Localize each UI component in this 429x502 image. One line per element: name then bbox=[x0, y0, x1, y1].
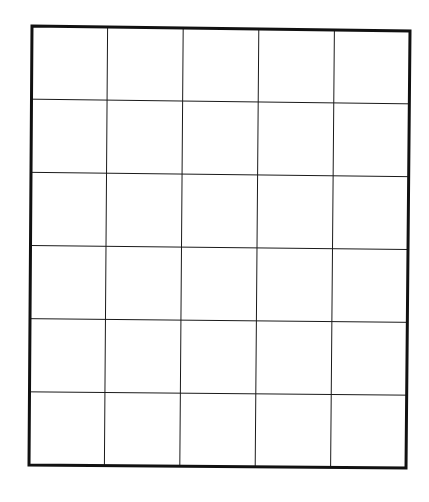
grid-row-line bbox=[30, 319, 407, 323]
grid-row-line bbox=[32, 99, 410, 104]
grid-row-line bbox=[31, 246, 409, 250]
empty-grid bbox=[0, 0, 429, 502]
grid-row-line bbox=[31, 172, 409, 176]
grid-row-line bbox=[30, 392, 407, 395]
grid-lines bbox=[30, 27, 410, 467]
grid-border bbox=[29, 26, 410, 468]
